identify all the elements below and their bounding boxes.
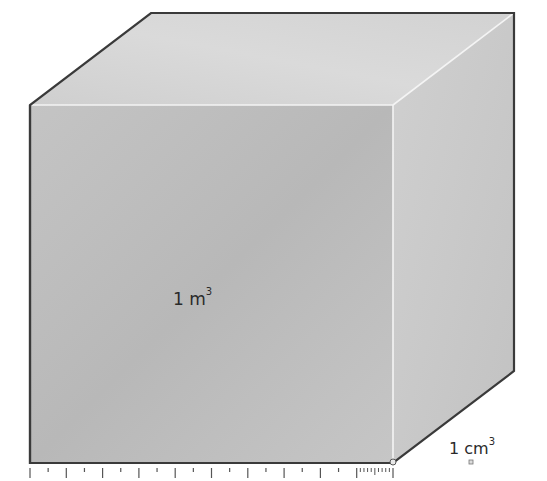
one-cubic-centimetre-cube [469, 460, 473, 464]
corner-small-cube-marker [390, 459, 396, 465]
large-cube [30, 13, 514, 465]
cube-front-face [30, 105, 393, 463]
large-cube-label-text: 1 m [173, 289, 206, 309]
small-cube-label: 1 cm3 [449, 440, 495, 457]
cube-volume-diagram [0, 0, 547, 481]
small-cube-label-exponent: 3 [489, 436, 495, 447]
large-cube-label-exponent: 3 [206, 286, 212, 297]
small-cube-label-text: 1 cm [449, 439, 489, 458]
small-cube [469, 460, 473, 464]
large-cube-label: 1 m3 [173, 290, 212, 308]
ruler [30, 468, 393, 478]
